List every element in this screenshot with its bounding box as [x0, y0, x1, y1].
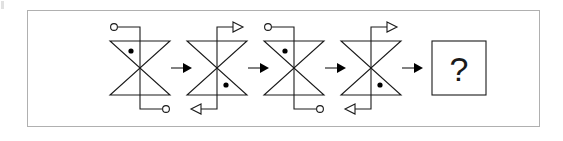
- answer-box[interactable]: ?: [432, 41, 486, 95]
- top-terminal-circle: [111, 24, 118, 31]
- top-stub: [371, 27, 387, 41]
- bottom-stub: [201, 95, 217, 109]
- arrow-head: [414, 63, 423, 73]
- top-stub: [272, 27, 294, 41]
- bowtie-figure-4: [341, 22, 401, 114]
- sequence-diagram: ?: [0, 0, 563, 141]
- sequence-arrow-1: [171, 63, 192, 73]
- state-dot: [223, 82, 228, 87]
- bowtie-figure-2: [187, 22, 247, 114]
- bottom-stub: [355, 95, 371, 109]
- bottom-terminal-circle: [163, 106, 170, 113]
- top-terminal-circle: [265, 24, 272, 31]
- answer-box-question-mark: ?: [450, 50, 469, 88]
- arrow-head: [337, 63, 346, 73]
- top-arrowhead: [387, 22, 397, 32]
- sequence-arrow-4: [402, 63, 423, 73]
- bottom-arrowhead: [345, 104, 355, 114]
- puzzle-stage: ?: [0, 0, 563, 141]
- bowtie-figure-3: [264, 24, 324, 113]
- sequence-arrow-2: [248, 63, 269, 73]
- bottom-terminal-circle: [317, 106, 324, 113]
- arrow-head: [260, 63, 269, 73]
- sequence-arrow-3: [325, 63, 346, 73]
- bottom-stub: [140, 95, 162, 109]
- state-dot: [282, 48, 287, 53]
- bottom-stub: [294, 95, 316, 109]
- bowtie-figure-1: [110, 24, 170, 113]
- bottom-arrowhead: [191, 104, 201, 114]
- arrow-head: [183, 63, 192, 73]
- top-stub: [217, 27, 233, 41]
- state-dot: [377, 82, 382, 87]
- top-stub: [118, 27, 140, 41]
- state-dot: [128, 48, 133, 53]
- top-arrowhead: [233, 22, 243, 32]
